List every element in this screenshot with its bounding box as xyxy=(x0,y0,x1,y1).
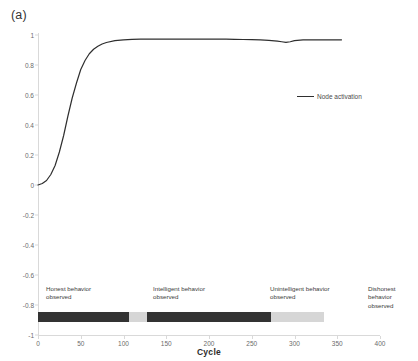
node-activation-line xyxy=(38,39,342,185)
y-tick-label: 0.8 xyxy=(25,62,34,69)
x-tick-label: 0 xyxy=(36,340,40,347)
y-tick-label: 0 xyxy=(30,182,34,189)
y-tick-label: -1 xyxy=(28,332,34,339)
phase-label: Unintelligent behavior observed xyxy=(270,285,330,302)
phase-label: Dishonest behavior observed xyxy=(368,285,396,310)
legend-label-node-activation: Node activation xyxy=(317,93,362,100)
y-tick-label: 0.2 xyxy=(25,152,34,159)
x-tick-mark xyxy=(380,336,381,339)
x-tick-mark xyxy=(166,336,167,339)
x-tick-mark xyxy=(38,336,39,339)
x-tick-label: 400 xyxy=(375,340,386,347)
phase-segment xyxy=(147,312,271,322)
figure-panel-a: (a) 10.80.60.40.20-0.2-0.4-0.6-0.8-1 050… xyxy=(0,0,418,361)
legend-line-swatch xyxy=(297,96,314,97)
x-tick-label: 200 xyxy=(204,340,215,347)
y-tick-label: 1 xyxy=(30,32,34,39)
y-tick-label: 0.4 xyxy=(25,122,34,129)
y-tick-label: -0.4 xyxy=(23,242,34,249)
phase-segment xyxy=(38,312,129,322)
x-tick-mark xyxy=(295,336,296,339)
x-tick-label: 150 xyxy=(161,340,172,347)
y-tick-label: -0.2 xyxy=(23,212,34,219)
x-tick-mark xyxy=(337,336,338,339)
y-tick-label: 0.6 xyxy=(25,92,34,99)
y-tick-label: -0.6 xyxy=(23,272,34,279)
panel-label: (a) xyxy=(11,8,27,22)
phase-band xyxy=(38,312,380,322)
x-tick-label: 300 xyxy=(289,340,300,347)
y-tick-label: -0.8 xyxy=(23,302,34,309)
phase-segment xyxy=(271,312,325,322)
x-tick-mark xyxy=(252,336,253,339)
x-tick-label: 350 xyxy=(332,340,343,347)
phase-label: Honest behavior observed xyxy=(46,285,91,302)
chart-legend: Node activation xyxy=(297,93,362,100)
phase-annotations: Honest behavior observedIntelligent beha… xyxy=(38,285,380,311)
x-tick-label: 50 xyxy=(77,340,84,347)
x-tick-label: 250 xyxy=(246,340,257,347)
x-axis-title: Cycle xyxy=(0,347,418,357)
x-tick-mark xyxy=(209,336,210,339)
phase-label: Intelligent behavior observed xyxy=(153,285,205,302)
x-tick-mark xyxy=(81,336,82,339)
phase-segment xyxy=(129,312,146,322)
x-tick-label: 100 xyxy=(118,340,129,347)
x-tick-mark xyxy=(124,336,125,339)
